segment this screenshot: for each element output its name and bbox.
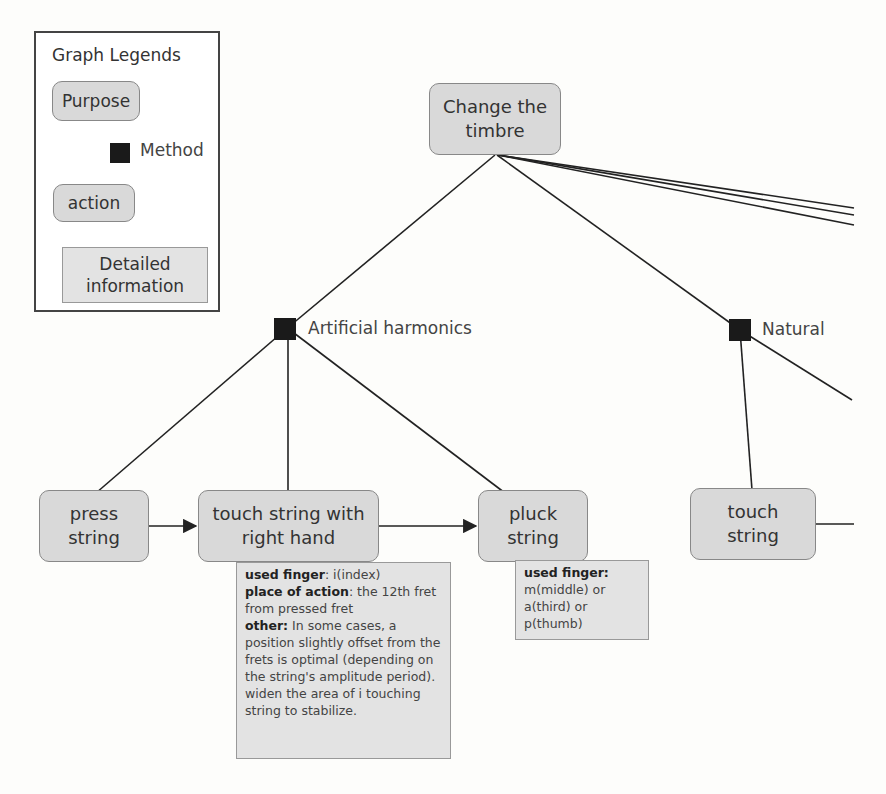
action-line1: press: [68, 502, 120, 526]
detail-pluck-line2: a(third) or: [524, 599, 587, 614]
detail-pluck-line1: m(middle) or: [524, 582, 605, 597]
method-square-icon[interactable]: [729, 319, 751, 341]
detail-pluck-line3: p(thumb): [524, 616, 583, 631]
detail-pluck-used-finger-label: used finger:: [524, 565, 609, 580]
legend-detail-line1: Detailed: [86, 253, 184, 275]
action-line2: string: [507, 526, 559, 550]
action-line2: string: [68, 526, 120, 550]
action-line1: pluck: [507, 502, 559, 526]
detail-pluck-string: used finger: m(middle) or a(third) or p(…: [515, 560, 649, 640]
legend-method-square-icon: [110, 143, 130, 163]
graph-legend: Graph Legends Purpose Method action Deta…: [34, 31, 220, 312]
method-label-natural: Natural: [762, 319, 825, 339]
action-line2: string: [727, 524, 779, 548]
action-pluck-string[interactable]: pluck string: [478, 490, 588, 562]
legend-purpose: Purpose: [52, 81, 140, 121]
detail-place-label: place of action: [245, 584, 349, 599]
legend-action: action: [53, 184, 135, 222]
purpose-line1: Change the: [443, 95, 547, 119]
method-square-icon[interactable]: [274, 318, 296, 340]
detail-used-finger-label: used finger: [245, 567, 325, 582]
legend-method-label: Method: [140, 140, 204, 160]
purpose-node-change-timbre[interactable]: Change the timbre: [429, 83, 561, 155]
legend-title: Graph Legends: [52, 45, 181, 65]
detail-other-value: In some cases, a position slightly offse…: [245, 618, 440, 718]
action-line2: right hand: [212, 526, 364, 550]
action-line1: touch: [727, 500, 779, 524]
purpose-line2: timbre: [443, 119, 547, 143]
action-press-string[interactable]: press string: [39, 490, 149, 562]
legend-detailed-information: Detailed information: [62, 247, 208, 303]
legend-purpose-label: Purpose: [62, 89, 130, 113]
detail-touch-right-hand: used finger: i(index) place of action: t…: [236, 562, 451, 759]
legend-detail-line2: information: [86, 275, 184, 297]
detail-other-label: other:: [245, 618, 288, 633]
method-label-artificial-harmonics: Artificial harmonics: [308, 318, 472, 338]
action-touch-string-right-hand[interactable]: touch string with right hand: [198, 490, 379, 562]
legend-action-label: action: [68, 191, 120, 215]
action-touch-string-natural[interactable]: touch string: [690, 488, 816, 560]
detail-used-finger-value: : i(index): [325, 567, 381, 582]
action-line1: touch string with: [212, 502, 364, 526]
